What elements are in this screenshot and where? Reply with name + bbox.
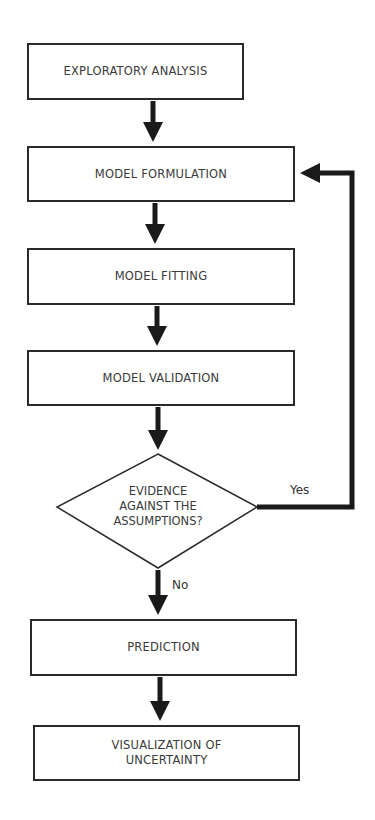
node-label-line-1: VISUALIZATION OF [111, 738, 221, 753]
connector-layer [0, 0, 375, 820]
node-label: MODEL FORMULATION [95, 167, 227, 182]
node-model-fitting: MODEL FITTING [27, 248, 295, 305]
no-label: No [172, 578, 188, 592]
node-label: EXPLORATORY ANALYSIS [64, 64, 208, 79]
node-model-validation: MODEL VALIDATION [27, 350, 295, 406]
arrow-decision-yes-to-formulation [257, 173, 352, 507]
node-label: MODEL VALIDATION [103, 371, 220, 386]
node-visualization-of-uncertainty: VISUALIZATION OF UNCERTAINTY [33, 725, 300, 781]
decision-line-2: AGAINST THE [78, 499, 238, 514]
decision-text: EVIDENCE AGAINST THE ASSUMPTIONS? [78, 484, 238, 529]
decision-line-1: EVIDENCE [78, 484, 238, 499]
yes-label: Yes [290, 483, 309, 497]
node-label: PREDICTION [127, 640, 200, 655]
node-exploratory-analysis: EXPLORATORY ANALYSIS [27, 43, 244, 100]
node-label-line-2: UNCERTAINTY [126, 753, 208, 768]
node-prediction: PREDICTION [30, 619, 297, 676]
decision-line-3: ASSUMPTIONS? [78, 514, 238, 529]
node-model-formulation: MODEL FORMULATION [27, 146, 295, 202]
node-label: MODEL FITTING [115, 269, 208, 284]
